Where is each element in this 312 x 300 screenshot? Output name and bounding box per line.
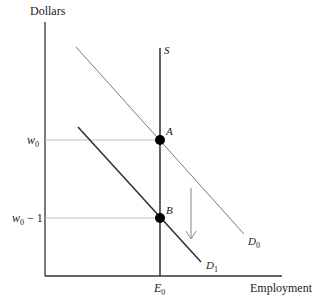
equilibrium-point-b — [155, 213, 165, 223]
demand-d0-label: D0 — [248, 236, 260, 250]
y-tick-w0-minus-1-base: w — [12, 211, 20, 225]
demand-d1-label-base: D — [206, 259, 214, 271]
x-axis-title: Employment — [250, 282, 312, 294]
x-tick-e0: E0 — [154, 282, 165, 297]
diagram-canvas — [0, 0, 312, 300]
y-tick-w0-sub: 0 — [35, 140, 39, 149]
shift-arrow-icon — [186, 188, 196, 239]
demand-d1-label: D1 — [206, 260, 218, 274]
y-tick-w0: w0 — [27, 134, 39, 149]
y-tick-w0-minus-1-suffix: − 1 — [24, 211, 43, 225]
demand-d1-label-sub: 1 — [214, 265, 218, 274]
x-tick-e0-sub: 0 — [161, 288, 165, 297]
demand-d0-label-base: D — [248, 235, 256, 247]
y-axis-title: Dollars — [30, 5, 65, 17]
y-tick-w0-minus-1: w0 − 1 — [12, 212, 43, 227]
labor-market-diagram: Dollars Employment w0 w0 − 1 E0 S D0 D1 … — [0, 0, 312, 300]
supply-curve-label: S — [164, 45, 170, 56]
point-a-label: A — [166, 126, 173, 137]
y-tick-w0-base: w — [27, 133, 35, 147]
demand-d0-label-sub: 0 — [256, 241, 260, 250]
demand-curve-d1 — [78, 127, 201, 262]
equilibrium-point-a — [155, 135, 165, 145]
point-b-label: B — [166, 205, 173, 216]
